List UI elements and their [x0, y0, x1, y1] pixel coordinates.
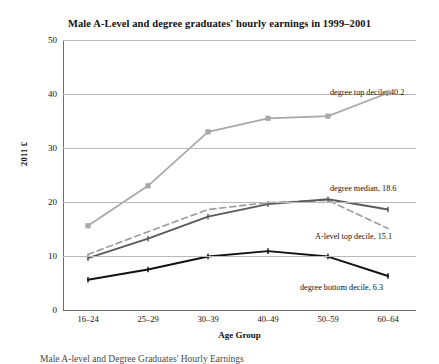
y-axis-ticks: 2011 £ 50 40 30 20 10 0	[25, 0, 57, 364]
y-tick-20: 20	[29, 197, 57, 207]
x-tick-0: 16–24	[58, 314, 118, 324]
y-tick-30: 30	[29, 143, 57, 153]
gridline-30	[63, 148, 416, 149]
series-line	[88, 200, 388, 254]
series-degree-median	[88, 197, 388, 261]
x-tick-2: 30–39	[178, 314, 238, 324]
gridline-10	[63, 256, 416, 257]
chart-figure: Male A-Level and degree graduates' hourl…	[0, 0, 439, 364]
data-point	[145, 183, 150, 188]
figure-caption: Male A-level and Degree Graduates' Hourl…	[40, 354, 439, 364]
series-a-level-top-decile	[88, 200, 388, 254]
x-axis-line	[63, 310, 416, 311]
gridline-20	[63, 202, 416, 203]
annotation-degree-top-decile: degree top decile, 40.2	[330, 88, 404, 97]
plot-area	[63, 40, 416, 310]
y-tick-0: 0	[29, 305, 57, 315]
annotation-degree-bottom-decile: degree bottom decile, 6.3	[300, 283, 383, 292]
gridline-50	[63, 40, 416, 41]
x-tick-3: 40–49	[238, 314, 298, 324]
x-tick-4: 50–59	[298, 314, 358, 324]
data-point	[85, 223, 90, 228]
annotation-degree-median: degree median, 18.6	[330, 184, 396, 193]
series-line	[88, 93, 388, 226]
x-tick-5: 60–64	[358, 314, 418, 324]
data-point	[265, 116, 270, 121]
y-tick-50: 50	[29, 35, 57, 45]
series-layer	[63, 40, 416, 310]
y-tick-40: 40	[29, 89, 57, 99]
y-tick-10: 10	[29, 251, 57, 261]
y-axis-label: 2011 £	[19, 142, 29, 166]
data-point	[205, 129, 210, 134]
series-degree-top-decile	[85, 90, 390, 228]
x-tick-1: 25–29	[118, 314, 178, 324]
annotation-alevel-top-decile: A-level top decile, 15.1	[315, 232, 392, 241]
chart-title: Male A-Level and degree graduates' hourl…	[0, 18, 439, 29]
x-axis-label: Age Group	[63, 330, 416, 340]
data-point	[325, 114, 330, 119]
series-degree-bottom-decile	[88, 248, 388, 282]
